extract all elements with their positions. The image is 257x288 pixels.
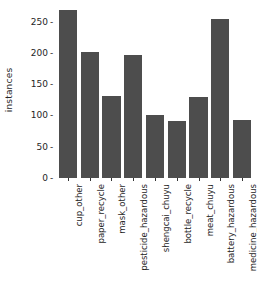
plot-area: [57, 6, 253, 178]
x-tick-label: mask_other: [115, 182, 129, 282]
y-tick-label: 50-: [37, 141, 56, 153]
y-tick-value: 200: [31, 47, 48, 59]
x-axis-tick-labels: cup_otherpaper_recyclemask_otherpesticid…: [57, 182, 257, 288]
x-tick-mark: [155, 178, 156, 181]
bar: [233, 120, 251, 178]
x-tick-label: paper_recycle: [94, 182, 108, 282]
x-tick-mark: [242, 178, 243, 181]
y-tick-label: 150-: [31, 78, 56, 90]
x-tick-mark: [90, 178, 91, 181]
y-tick-label: 250-: [31, 16, 56, 28]
y-tick-dash: -: [48, 109, 56, 121]
bar: [168, 121, 186, 178]
x-tick-label: meat_chuyu: [203, 182, 217, 282]
x-tick-mark: [177, 178, 178, 181]
y-axis-label-text: instances: [4, 68, 14, 113]
y-tick-dash: -: [48, 16, 56, 28]
x-tick-label: shengcai_chuyu: [159, 182, 173, 282]
x-tick-mark: [199, 178, 200, 181]
y-tick-dash: -: [48, 141, 56, 153]
x-tick-mark: [220, 178, 221, 181]
bar-chart-figure: instances 0-50-100-150-200-250- cup_othe…: [0, 0, 257, 288]
x-tick-label: bottle_recycle: [181, 182, 195, 282]
y-tick-label: 100-: [31, 109, 56, 121]
y-tick-value: 50: [37, 141, 48, 153]
bar: [146, 115, 164, 178]
bar: [124, 55, 142, 178]
y-tick-label: 0-: [42, 172, 56, 184]
bar: [102, 96, 120, 178]
x-tick-label: battery_hazardous: [224, 182, 238, 282]
y-tick-value: 150: [31, 78, 48, 90]
y-tick-dash: -: [48, 47, 56, 59]
bar: [211, 19, 229, 178]
y-tick-value: 100: [31, 109, 48, 121]
x-tick-label: cup_other: [72, 182, 86, 282]
x-tick-label: medicine_hazardous: [246, 182, 257, 282]
bar: [81, 52, 99, 178]
y-tick-label: 200-: [31, 47, 56, 59]
y-tick-dash: -: [48, 172, 56, 184]
y-axis-tick-labels: 0-50-100-150-200-250-: [14, 0, 56, 288]
x-tick-mark: [68, 178, 69, 181]
bar: [189, 97, 207, 178]
bar: [59, 10, 77, 178]
x-tick-mark: [111, 178, 112, 181]
y-tick-dash: -: [48, 78, 56, 90]
x-tick-label: pesticide_hazardous: [137, 182, 151, 282]
x-tick-mark: [133, 178, 134, 181]
y-tick-value: 250: [31, 16, 48, 28]
